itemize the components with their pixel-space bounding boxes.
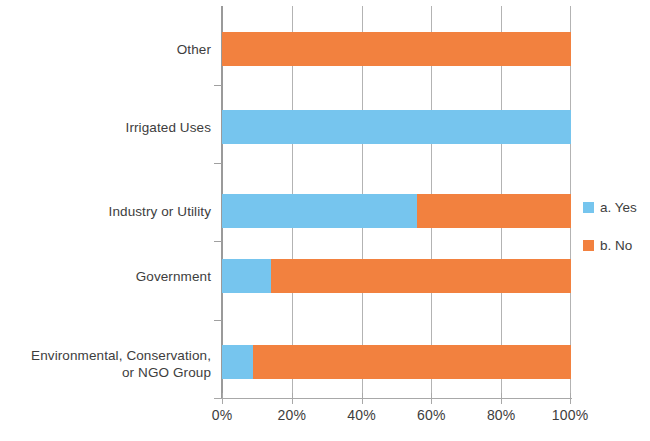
plot-area <box>222 6 571 399</box>
x-axis-tick-label-40: 40% <box>332 407 392 423</box>
x-axis-tick <box>501 393 502 404</box>
y-axis-label-line: Irrigated Uses <box>6 119 211 136</box>
bar-row-environmental-ngo-group <box>222 345 571 379</box>
x-axis-tick <box>431 393 432 404</box>
x-axis-tick-label-0: 0% <box>192 407 252 423</box>
bar-segment-yes <box>222 194 417 228</box>
y-axis-tick <box>214 163 222 164</box>
legend-label-yes: a. Yes <box>600 200 637 215</box>
y-axis-label-government: Government <box>6 268 222 285</box>
x-axis-tick-label-100: 100% <box>540 407 600 423</box>
bar-segment-yes <box>222 345 253 379</box>
x-axis-tick-label-60: 60% <box>401 407 461 423</box>
y-axis-label-line: or NGO Group <box>6 364 211 381</box>
y-axis-label-line: Industry or Utility <box>6 203 211 220</box>
y-axis-label-line: Government <box>6 268 211 285</box>
bar-row-irrigated-uses <box>222 110 571 144</box>
bar-segment-yes <box>222 259 271 293</box>
y-axis-tick <box>214 241 222 242</box>
y-axis-label-line: Environmental, Conservation, <box>6 347 211 364</box>
legend-item-yes[interactable]: a. Yes <box>583 196 650 218</box>
bar-segment-no <box>253 345 571 379</box>
stacked-bar-chart: Other Irrigated Uses Industry or Utility… <box>0 0 650 441</box>
legend-swatch-no-icon <box>583 240 594 251</box>
y-axis-label-other: Other <box>6 41 222 58</box>
legend-swatch-yes-icon <box>583 202 594 213</box>
bar-segment-no <box>271 259 571 293</box>
x-axis-tick <box>222 393 223 404</box>
bar-row-industry-or-utility <box>222 194 571 228</box>
bar-segment-yes <box>222 110 571 144</box>
x-axis-tick <box>362 393 363 404</box>
bar-segment-no <box>222 32 571 66</box>
legend-item-no[interactable]: b. No <box>583 234 650 256</box>
x-axis-tick <box>570 393 571 404</box>
x-axis-tick-label-80: 80% <box>471 407 531 423</box>
bar-segment-no <box>417 194 571 228</box>
y-axis-label-industry-or-utility: Industry or Utility <box>6 203 222 220</box>
y-axis-tick <box>214 320 222 321</box>
legend: a. Yes b. No <box>583 196 650 272</box>
y-axis-labels: Other Irrigated Uses Industry or Utility… <box>0 0 222 441</box>
legend-label-no: b. No <box>600 238 632 253</box>
y-axis-label-environmental-ngo-group: Environmental, Conservation, or NGO Grou… <box>6 347 222 381</box>
x-axis-tick-label-20: 20% <box>262 407 322 423</box>
y-axis-tick <box>214 85 222 86</box>
bar-row-other <box>222 32 571 66</box>
y-axis-label-irrigated-uses: Irrigated Uses <box>6 119 222 136</box>
bar-row-government <box>222 259 571 293</box>
y-axis-label-line: Other <box>6 41 211 58</box>
x-axis-tick <box>292 393 293 404</box>
